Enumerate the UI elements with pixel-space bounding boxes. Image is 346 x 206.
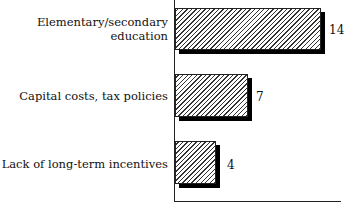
- category-label-1: Capital costs, tax policies: [19, 89, 168, 103]
- category-label-0-line-1: Elementary/secondary: [37, 15, 168, 29]
- bar-0-fill: [175, 8, 321, 50]
- value-label-1: 7: [256, 90, 264, 104]
- category-label-0: Elementary/secondary education: [37, 15, 168, 43]
- value-label-0: 14: [329, 23, 344, 37]
- x-axis-line: [174, 201, 341, 202]
- category-label-2: Lack of long-term incentives: [2, 157, 168, 171]
- bar-1-fill: [175, 74, 248, 117]
- bar-2-fill: [175, 141, 216, 184]
- category-label-0-line-2: education: [37, 29, 168, 43]
- value-label-2: 4: [227, 158, 235, 172]
